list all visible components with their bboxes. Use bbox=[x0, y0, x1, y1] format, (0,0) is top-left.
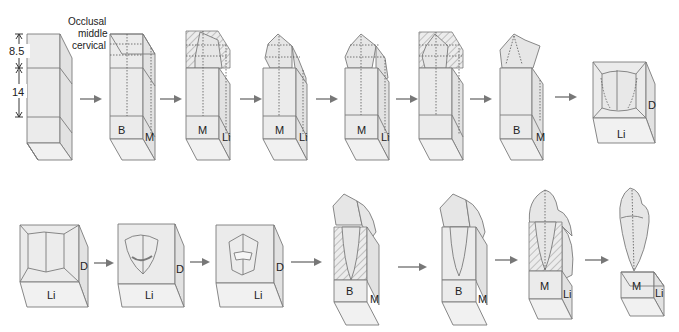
face-label-M: M bbox=[357, 124, 366, 136]
dimension-crown: 8.5 bbox=[9, 45, 24, 57]
dimension-root: 14 bbox=[12, 86, 24, 98]
step-1-block: 8.5 14 bbox=[8, 34, 72, 160]
face-label-D: D bbox=[276, 261, 284, 273]
step-5-block: M Li bbox=[345, 34, 390, 160]
face-label-Li: Li bbox=[299, 131, 308, 143]
face-label-Li: Li bbox=[563, 288, 572, 300]
face-label-Li: Li bbox=[381, 131, 390, 143]
step-12-block: B M bbox=[333, 194, 379, 325]
label-cervical: cervical bbox=[72, 40, 106, 51]
face-label-Li: Li bbox=[655, 287, 664, 299]
step-13-block: B M bbox=[440, 194, 487, 325]
face-label-B: B bbox=[455, 285, 462, 297]
label-middle: middle bbox=[78, 28, 108, 39]
face-label-M: M bbox=[370, 293, 379, 305]
step-9-block: D Li bbox=[20, 225, 88, 307]
face-label-M: M bbox=[536, 131, 545, 143]
face-label-Li: Li bbox=[47, 289, 56, 301]
face-label-D: D bbox=[80, 260, 88, 272]
face-label-B: B bbox=[118, 124, 125, 136]
face-label-M: M bbox=[632, 280, 641, 292]
step-6-block bbox=[419, 32, 463, 160]
label-occlusal: Occlusal bbox=[68, 16, 106, 27]
face-label-Li: Li bbox=[617, 128, 626, 140]
step-8-block: D Li bbox=[593, 62, 656, 143]
step-3-block: M Li bbox=[186, 31, 231, 160]
face-label-D: D bbox=[176, 263, 184, 275]
face-label-M: M bbox=[478, 293, 487, 305]
step-14-block: M Li bbox=[529, 190, 573, 319]
step-7-block: B M bbox=[500, 34, 545, 160]
step-2-block: B M bbox=[110, 34, 155, 160]
face-label-B: B bbox=[346, 285, 353, 297]
step-4-block: M Li bbox=[263, 34, 308, 160]
face-label-M: M bbox=[198, 124, 207, 136]
face-label-Li: Li bbox=[145, 289, 154, 301]
face-label-M: M bbox=[540, 280, 549, 292]
face-label-Li: Li bbox=[254, 289, 263, 301]
step-15-block: M Li bbox=[620, 188, 664, 316]
face-label-B: B bbox=[513, 124, 520, 136]
tooth-carving-diagram: 8.5 14 Occlusal middle cervical B M bbox=[0, 0, 679, 332]
step-10-block: D Li bbox=[118, 224, 184, 307]
face-label-M: M bbox=[145, 131, 154, 143]
face-label-D: D bbox=[648, 99, 656, 111]
step-11-block: D Li bbox=[216, 225, 284, 307]
face-label-Li: Li bbox=[222, 131, 231, 143]
face-label-M: M bbox=[275, 124, 284, 136]
